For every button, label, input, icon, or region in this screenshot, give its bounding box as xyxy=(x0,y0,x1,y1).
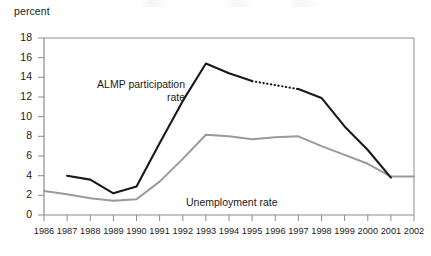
x-axis-ticks xyxy=(44,215,414,221)
y-tick-label-0: 0 xyxy=(6,209,32,220)
y-tick-label-2: 2 xyxy=(6,189,32,200)
y-tick-label-12: 12 xyxy=(6,91,32,102)
y-tick-label-10: 10 xyxy=(6,111,32,122)
y-tick-label-14: 14 xyxy=(6,71,32,82)
almp-series-annotation: ALMP participation rate xyxy=(75,78,185,104)
y-axis-ticks xyxy=(38,38,44,215)
x-tick-label-2002: 2002 xyxy=(397,226,431,237)
chart-container: percent xyxy=(0,0,431,256)
y-tick-label-6: 6 xyxy=(6,150,32,161)
y-tick-label-16: 16 xyxy=(6,52,32,63)
series-line-almp-dotted-segment xyxy=(252,81,298,89)
almp-label-line-1: ALMP participation xyxy=(75,78,185,91)
series-line-almp-solid-late xyxy=(298,89,391,178)
y-tick-label-18: 18 xyxy=(6,32,32,43)
y-tick-label-4: 4 xyxy=(6,170,32,181)
unemployment-series-annotation: Unemployment rate xyxy=(186,196,278,209)
y-tick-label-8: 8 xyxy=(6,130,32,141)
plot-area xyxy=(0,0,431,256)
series-line-unemployment-rate xyxy=(44,135,414,201)
almp-label-line-2: rate xyxy=(75,91,185,104)
axis-frame xyxy=(44,38,414,215)
